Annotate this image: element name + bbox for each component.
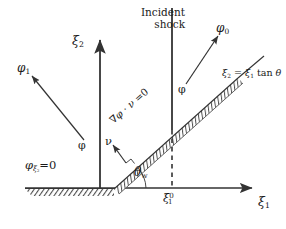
phi1-arrow: [32, 76, 84, 140]
phi0-arrow: [186, 36, 218, 84]
phi-mid-label: φ: [178, 84, 186, 95]
phi0-label: φ0: [216, 22, 229, 36]
incident-shock-label: Incident shock: [133, 6, 185, 31]
phi1-label: φ1: [17, 62, 30, 76]
xi2-axis-label: ξ2: [72, 35, 84, 49]
wedge-equation-label: ξ2 = ξ1 tan θ: [222, 68, 281, 80]
shock-position-label: ξ01: [163, 192, 172, 205]
wall-hatching: [25, 189, 114, 197]
phi-left-label: φ: [78, 140, 86, 151]
normal-vector-nu: [113, 145, 135, 164]
xi1-axis-label: ξ1: [258, 196, 270, 210]
wall-boundary-condition-label: φξ2=0: [25, 160, 56, 174]
normal-vector-label: ν: [105, 136, 112, 148]
diagram-canvas: [0, 0, 286, 229]
wedge-angle-label: θw: [134, 166, 148, 180]
shock-reflection-diagram: Incident shock ξ2 ξ1 φ0 φ1 φ φ ξ2 = ξ1 t…: [0, 0, 286, 229]
